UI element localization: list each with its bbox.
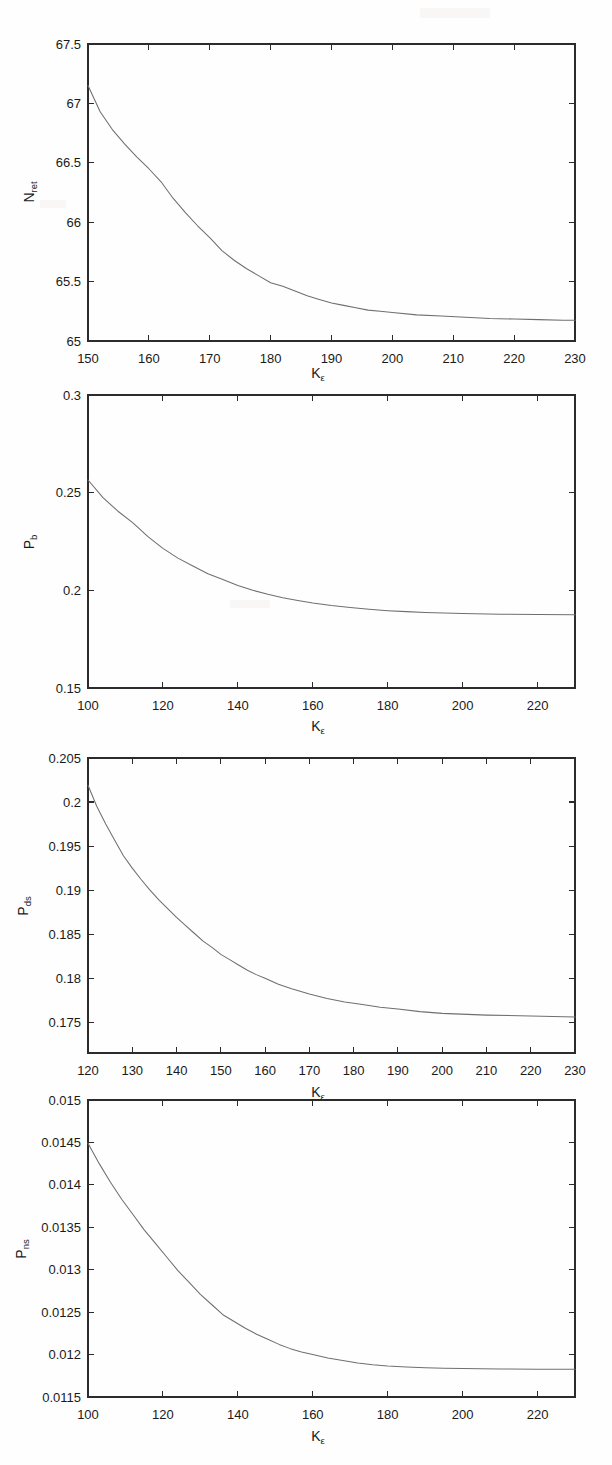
x-tick-label: 100 bbox=[77, 1407, 99, 1422]
x-tick-label: 200 bbox=[431, 1063, 453, 1078]
panel-n-ret: 6565.56666.56767.5 150160170180190200210… bbox=[0, 0, 612, 390]
plot-n-ret: 6565.56666.56767.5 150160170180190200210… bbox=[0, 0, 612, 390]
y-ticks-p-ns bbox=[88, 1100, 575, 1397]
x-tick-label: 210 bbox=[476, 1063, 498, 1078]
y-tick-labels-p-b: 0.150.20.250.3 bbox=[56, 388, 81, 696]
figure-page: 6565.56666.56767.5 150160170180190200210… bbox=[0, 0, 612, 1465]
panel-p-b: 0.150.20.250.3 100120140160180200220 Pb … bbox=[0, 385, 612, 755]
y-axis-label-n-ret: Nret bbox=[21, 181, 39, 203]
x-tick-label: 120 bbox=[77, 1063, 99, 1078]
x-tick-labels-n-ret: 150160170180190200210220230 bbox=[77, 351, 586, 366]
x-ticks-n-ret bbox=[88, 44, 575, 341]
y-tick-labels-p-ds: 0.1750.180.1850.190.1950.20.205 bbox=[48, 751, 81, 1030]
x-tick-label: 120 bbox=[152, 1407, 174, 1422]
y-tick-label: 0.25 bbox=[56, 485, 81, 500]
axes-frame-n-ret bbox=[88, 44, 575, 341]
x-tick-label: 160 bbox=[254, 1063, 276, 1078]
y-ticks-p-b bbox=[88, 395, 575, 688]
y-tick-label: 0.205 bbox=[48, 751, 81, 766]
axes-frame-p-ds bbox=[88, 758, 575, 1053]
y-tick-label: 66 bbox=[67, 215, 81, 230]
x-axis-label-p-ns: Kε bbox=[311, 1428, 325, 1446]
y-tick-label: 0.0115 bbox=[42, 1390, 81, 1405]
y-tick-label: 0.2 bbox=[63, 583, 81, 598]
x-tick-labels-p-b: 100120140160180200220 bbox=[77, 698, 548, 713]
y-tick-label: 0.19 bbox=[56, 883, 81, 898]
x-tick-label: 230 bbox=[564, 351, 586, 366]
x-axis-label-n-ret: Kε bbox=[311, 365, 325, 383]
y-tick-label: 0.2 bbox=[63, 795, 81, 810]
y-tick-labels-p-ns: 0.01150.0120.01250.0130.01350.0140.01450… bbox=[41, 1093, 81, 1405]
x-tick-label: 200 bbox=[452, 698, 474, 713]
y-tick-label: 67 bbox=[67, 96, 81, 111]
x-tick-label: 230 bbox=[564, 1063, 586, 1078]
x-tick-label: 200 bbox=[452, 1407, 474, 1422]
y-ticks-p-ds bbox=[88, 758, 575, 1022]
y-tick-label: 0.18 bbox=[56, 971, 81, 986]
x-ticks-p-ds bbox=[88, 758, 575, 1053]
x-tick-labels-p-ns: 100120140160180200220 bbox=[77, 1407, 548, 1422]
plot-p-ds: 0.1750.180.1850.190.1950.20.205 12013014… bbox=[0, 750, 612, 1110]
x-tick-label: 130 bbox=[121, 1063, 143, 1078]
y-tick-label: 0.195 bbox=[48, 839, 81, 854]
x-tick-label: 220 bbox=[520, 1063, 542, 1078]
x-tick-label: 100 bbox=[77, 698, 99, 713]
data-curve-p-b bbox=[88, 480, 575, 615]
x-tick-label: 210 bbox=[442, 351, 464, 366]
x-tick-label: 160 bbox=[138, 351, 160, 366]
x-ticks-p-b bbox=[88, 395, 538, 688]
x-tick-label: 190 bbox=[321, 351, 343, 366]
y-tick-label: 0.014 bbox=[48, 1177, 81, 1192]
x-ticks-p-ns bbox=[88, 1100, 538, 1397]
y-tick-label: 0.3 bbox=[63, 388, 81, 403]
y-tick-label: 0.0135 bbox=[41, 1220, 81, 1235]
axes-frame-p-b bbox=[88, 395, 575, 688]
x-tick-label: 190 bbox=[387, 1063, 409, 1078]
y-tick-label: 0.185 bbox=[48, 927, 81, 942]
y-axis-label-p-ns: Pns bbox=[13, 1239, 31, 1259]
x-tick-label: 220 bbox=[527, 698, 549, 713]
y-tick-label: 65.5 bbox=[56, 274, 81, 289]
x-tick-label: 180 bbox=[377, 698, 399, 713]
x-tick-label: 180 bbox=[260, 351, 282, 366]
y-tick-label: 0.0125 bbox=[41, 1305, 81, 1320]
y-tick-label: 0.015 bbox=[48, 1093, 81, 1108]
x-tick-label: 120 bbox=[152, 698, 174, 713]
plot-p-b: 0.150.20.250.3 100120140160180200220 Pb … bbox=[0, 385, 612, 755]
data-curve-n-ret bbox=[88, 86, 575, 321]
x-tick-label: 180 bbox=[343, 1063, 365, 1078]
x-tick-label: 220 bbox=[503, 351, 525, 366]
y-axis-label-p-ds: Pds bbox=[15, 896, 33, 916]
x-tick-label: 170 bbox=[199, 351, 221, 366]
x-tick-label: 160 bbox=[302, 1407, 324, 1422]
panel-p-ns: 0.01150.0120.01250.0130.01350.0140.01450… bbox=[0, 1093, 612, 1465]
x-tick-label: 200 bbox=[382, 351, 404, 366]
y-axis-label-p-b: Pb bbox=[21, 535, 39, 550]
panel-p-ds: 0.1750.180.1850.190.1950.20.205 12013014… bbox=[0, 750, 612, 1110]
x-tick-label: 140 bbox=[227, 698, 249, 713]
x-tick-label: 180 bbox=[377, 1407, 399, 1422]
y-tick-label: 0.012 bbox=[48, 1347, 81, 1362]
x-tick-label: 150 bbox=[77, 351, 99, 366]
y-tick-label: 67.5 bbox=[56, 37, 81, 52]
x-tick-labels-p-ds: 120130140150160170180190200210220230 bbox=[77, 1063, 586, 1078]
x-tick-label: 220 bbox=[527, 1407, 549, 1422]
data-curve-p-ds bbox=[88, 785, 575, 1017]
y-tick-label: 0.013 bbox=[48, 1262, 81, 1277]
y-tick-labels-n-ret: 6565.56666.56767.5 bbox=[56, 37, 81, 349]
y-tick-label: 0.15 bbox=[56, 681, 81, 696]
y-tick-label: 0.175 bbox=[48, 1015, 81, 1030]
axes-frame-p-ns bbox=[88, 1100, 575, 1397]
y-tick-label: 66.5 bbox=[56, 155, 81, 170]
x-tick-label: 140 bbox=[166, 1063, 188, 1078]
y-tick-label: 65 bbox=[67, 334, 81, 349]
x-tick-label: 140 bbox=[227, 1407, 249, 1422]
y-ticks-n-ret bbox=[88, 44, 575, 341]
x-tick-label: 150 bbox=[210, 1063, 232, 1078]
plot-p-ns: 0.01150.0120.01250.0130.01350.0140.01450… bbox=[0, 1093, 612, 1465]
x-tick-label: 160 bbox=[302, 698, 324, 713]
y-tick-label: 0.0145 bbox=[41, 1135, 81, 1150]
x-tick-label: 170 bbox=[299, 1063, 321, 1078]
x-axis-label-p-b: Kε bbox=[311, 718, 325, 736]
data-curve-p-ns bbox=[88, 1143, 575, 1369]
